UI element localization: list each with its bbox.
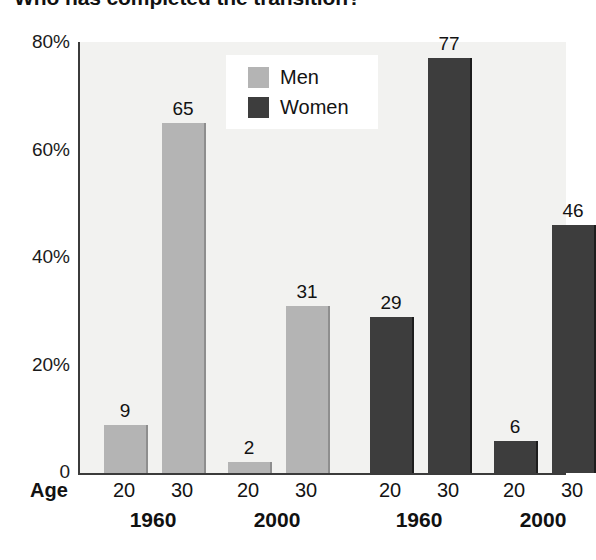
bar-women-2000-age20: 6 [494, 441, 538, 473]
bar-women-2000-age30: 46 [552, 225, 596, 473]
y-tick-20: 20% [0, 354, 70, 376]
legend-label-men: Men [280, 67, 319, 87]
x-group-label-women-1960: 1960 [396, 508, 443, 532]
bar-women-1960-age20: 29 [370, 317, 414, 473]
legend-item-women: Women [248, 92, 378, 122]
y-tick-60: 60% [0, 139, 70, 161]
page-title: Who has completed the transition? [14, 0, 361, 10]
x-axis: Age 20 30 20 30 20 30 20 30 1960 2000 19… [0, 477, 584, 557]
bar-value-label: 46 [562, 200, 583, 222]
legend-label-women: Women [280, 97, 349, 117]
plot-area: 9 65 2 31 29 77 6 46 Men Women [78, 42, 566, 475]
x-group-label-men-2000: 2000 [254, 508, 301, 532]
bar-value-label: 9 [120, 400, 131, 422]
legend-swatch-men-icon [248, 67, 269, 88]
bar-women-1960-age30: 77 [428, 58, 472, 473]
x-tick-men-2000-age30: 30 [295, 479, 317, 502]
legend-item-men: Men [248, 62, 378, 92]
x-axis-title: Age [30, 479, 68, 502]
bar-men-2000-age30: 31 [286, 306, 330, 473]
bar-men-2000-age20: 2 [228, 462, 272, 473]
bar-value-label: 2 [244, 437, 255, 459]
x-group-label-women-2000: 2000 [520, 508, 567, 532]
y-tick-80: 80% [0, 31, 70, 53]
bar-value-label: 31 [296, 281, 317, 303]
x-tick-women-2000-age20: 20 [503, 479, 525, 502]
legend: Men Women [226, 55, 378, 129]
x-tick-men-1960-age20: 20 [113, 479, 135, 502]
x-tick-women-2000-age30: 30 [561, 479, 583, 502]
x-tick-women-1960-age20: 20 [379, 479, 401, 502]
bar-value-label: 6 [510, 416, 521, 438]
x-tick-men-1960-age30: 30 [171, 479, 193, 502]
x-tick-men-2000-age20: 20 [237, 479, 259, 502]
y-tick-40: 40% [0, 246, 70, 268]
legend-swatch-women-icon [248, 97, 269, 118]
bar-value-label: 65 [172, 98, 193, 120]
x-tick-women-1960-age30: 30 [437, 479, 459, 502]
bar-men-1960-age30: 65 [162, 123, 206, 473]
bar-men-1960-age20: 9 [104, 425, 148, 473]
bar-value-label: 29 [380, 292, 401, 314]
bar-value-label: 77 [438, 33, 459, 55]
x-group-label-men-1960: 1960 [130, 508, 177, 532]
